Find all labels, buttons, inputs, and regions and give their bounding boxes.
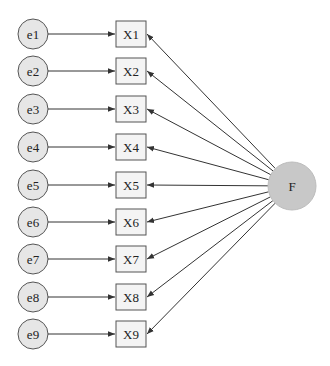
indicator-row: e9X9 <box>18 203 275 349</box>
error-label: e2 <box>27 64 39 79</box>
loading-arrow <box>147 201 273 297</box>
error-label: e8 <box>27 290 39 305</box>
indicator-row: e6X6 <box>18 192 269 237</box>
error-label: e5 <box>27 178 39 193</box>
loading-arrow <box>147 147 269 180</box>
indicator-row: e5X5 <box>18 170 268 200</box>
loading-arrow <box>147 185 268 186</box>
loading-arrow <box>147 203 275 334</box>
indicator-label: X8 <box>123 290 139 305</box>
error-label: e7 <box>27 252 40 267</box>
loading-arrow <box>147 109 271 175</box>
error-label: e9 <box>27 327 39 342</box>
indicator-label: X3 <box>123 102 139 117</box>
factor-label: F <box>288 179 295 194</box>
indicator-label: X7 <box>123 252 139 267</box>
loading-arrow <box>147 71 273 171</box>
indicator-label: X4 <box>123 140 139 155</box>
indicator-label: X6 <box>123 215 139 230</box>
indicator-label: X9 <box>123 327 139 342</box>
factor-node: F <box>268 162 316 210</box>
indicator-row: e1X1 <box>18 19 275 169</box>
indicator-label: X2 <box>123 64 139 79</box>
error-label: e3 <box>27 102 39 117</box>
loading-arrow <box>147 34 275 169</box>
error-label: e1 <box>27 27 39 42</box>
indicator-label: X5 <box>123 178 139 193</box>
error-label: e6 <box>27 215 40 230</box>
indicator-label: X1 <box>123 27 139 42</box>
error-label: e4 <box>27 140 40 155</box>
path-diagram: e1X1e2X2e3X3e4X4e5X5e6X6e7X7e8X8e9X9 F <box>0 0 330 366</box>
